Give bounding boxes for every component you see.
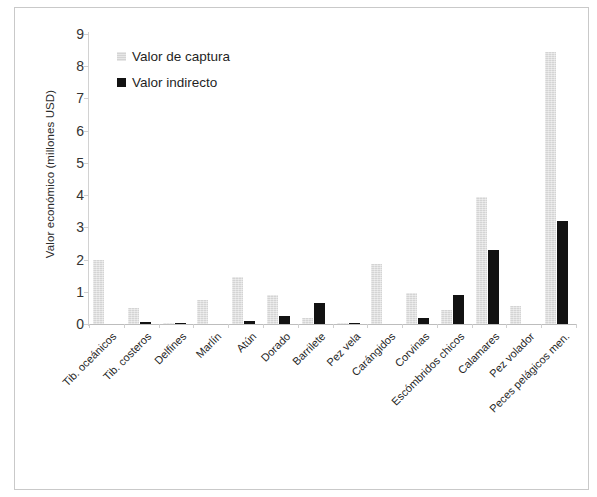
bar-valor-de-captura[interactable] bbox=[545, 52, 556, 324]
bar-valor-de-captura[interactable] bbox=[232, 277, 243, 324]
bar-group bbox=[333, 34, 368, 324]
legend-item-label: Valor de captura bbox=[132, 50, 230, 64]
bar-valor-de-captura[interactable] bbox=[476, 197, 487, 324]
bar-valor-indirecto[interactable] bbox=[453, 295, 464, 324]
y-axis-tick-mark bbox=[84, 131, 89, 132]
legend-swatch-indirect-icon bbox=[117, 78, 126, 87]
bar-group bbox=[437, 34, 472, 324]
bar-valor-indirecto[interactable] bbox=[314, 303, 325, 324]
x-axis-tick-label: Tib. oceánicos bbox=[110, 330, 111, 331]
x-axis-tick-label: Peces pelágicos men. bbox=[563, 330, 564, 331]
bar-chart: Valor económico (millones USD) 012345678… bbox=[0, 0, 597, 497]
bar-group bbox=[506, 34, 541, 324]
bar-valor-indirecto[interactable] bbox=[418, 318, 429, 324]
y-axis-tick-mark bbox=[84, 227, 89, 228]
y-axis-tick-mark bbox=[84, 34, 89, 35]
bar-valor-de-captura[interactable] bbox=[197, 300, 208, 324]
y-axis-tick-label: 8 bbox=[62, 58, 84, 74]
bar-valor-indirecto[interactable] bbox=[140, 322, 151, 324]
y-axis-tick-mark bbox=[84, 195, 89, 196]
x-axis-tick-label: Carángidos bbox=[389, 330, 390, 331]
x-axis-tick-label: Pez volador bbox=[528, 330, 529, 331]
y-axis-tick-label: 9 bbox=[62, 26, 84, 42]
y-axis-tick-label: 5 bbox=[62, 155, 84, 171]
bar-group bbox=[228, 34, 263, 324]
bar-valor-de-captura[interactable] bbox=[406, 293, 417, 324]
y-axis-tick-label: 6 bbox=[62, 123, 84, 139]
x-axis-tick-mark bbox=[263, 324, 264, 328]
y-axis-tick-mark bbox=[84, 66, 89, 67]
legend-item[interactable]: Valor indirecto bbox=[117, 74, 230, 91]
x-axis-tick-label-text: Delfines bbox=[152, 330, 189, 367]
x-axis-tick-label-text: Marlín bbox=[193, 330, 223, 360]
x-axis-tick-mark bbox=[298, 324, 299, 328]
x-axis-tick-label: Marlín bbox=[215, 330, 216, 331]
y-axis-tick-mark bbox=[84, 292, 89, 293]
x-axis-tick-label: Calamares bbox=[493, 330, 494, 331]
bar-valor-de-captura[interactable] bbox=[302, 318, 313, 324]
legend-swatch-capture-icon bbox=[117, 52, 126, 61]
y-axis-tick-mark bbox=[84, 260, 89, 261]
bar-valor-indirecto[interactable] bbox=[349, 323, 360, 324]
bar-valor-indirecto[interactable] bbox=[488, 250, 499, 324]
x-axis-tick-mark bbox=[472, 324, 473, 328]
bar-valor-de-captura[interactable] bbox=[441, 310, 452, 325]
bar-valor-de-captura[interactable] bbox=[163, 323, 174, 324]
x-axis-tick-mark bbox=[228, 324, 229, 328]
x-axis-tick-label: Atún bbox=[250, 330, 251, 331]
x-axis-tick-mark bbox=[576, 324, 577, 328]
legend-item-label: Valor indirecto bbox=[132, 76, 217, 90]
x-axis-tick-label: Dorado bbox=[284, 330, 285, 331]
x-axis-tick-mark bbox=[541, 324, 542, 328]
bar-valor-indirecto[interactable] bbox=[175, 323, 186, 324]
bar-valor-de-captura[interactable] bbox=[510, 306, 521, 324]
bar-valor-de-captura[interactable] bbox=[371, 264, 382, 324]
y-axis-tick-mark bbox=[84, 98, 89, 99]
x-axis-tick-mark bbox=[193, 324, 194, 328]
x-axis-tick-label: Pez vela bbox=[354, 330, 355, 331]
x-axis-tick-label: Delfines bbox=[180, 330, 181, 331]
y-axis-tick-label: 3 bbox=[62, 219, 84, 235]
x-axis-tick-mark bbox=[89, 324, 90, 328]
bar-valor-indirecto[interactable] bbox=[279, 316, 290, 324]
x-axis-tick-label: Escómbridos chicos bbox=[458, 330, 459, 331]
bar-valor-de-captura[interactable] bbox=[267, 295, 278, 324]
x-axis-tick-label-text: Barrilete bbox=[290, 330, 327, 367]
bar-group bbox=[541, 34, 576, 324]
y-axis-tick-label: 0 bbox=[62, 316, 84, 332]
x-axis-tick-mark bbox=[333, 324, 334, 328]
bar-group bbox=[298, 34, 333, 324]
y-axis-tick-label: 4 bbox=[62, 187, 84, 203]
bar-group bbox=[367, 34, 402, 324]
x-axis-tick-label: Barrilete bbox=[319, 330, 320, 331]
y-axis-ticks: 0123456789 bbox=[54, 34, 84, 324]
x-axis-tick-mark bbox=[367, 324, 368, 328]
x-axis-tick-mark bbox=[506, 324, 507, 328]
bar-group bbox=[472, 34, 507, 324]
bar-valor-indirecto[interactable] bbox=[244, 321, 255, 324]
bar-valor-de-captura[interactable] bbox=[128, 308, 139, 324]
y-axis-tick-label: 7 bbox=[62, 90, 84, 106]
x-axis-tick-mark bbox=[124, 324, 125, 328]
y-axis-tick-mark bbox=[84, 163, 89, 164]
x-axis-tick-label-text: Dorado bbox=[259, 330, 293, 364]
chart-legend: Valor de capturaValor indirecto bbox=[117, 48, 230, 100]
legend-item[interactable]: Valor de captura bbox=[117, 48, 230, 65]
bar-valor-de-captura[interactable] bbox=[337, 323, 348, 324]
x-axis-tick-mark bbox=[159, 324, 160, 328]
y-axis-tick-label: 2 bbox=[62, 252, 84, 268]
bar-valor-indirecto[interactable] bbox=[557, 221, 568, 324]
bar-valor-de-captura[interactable] bbox=[93, 260, 104, 324]
y-axis-tick-label: 1 bbox=[62, 284, 84, 300]
x-axis-tick-label: Tib. costeros bbox=[145, 330, 146, 331]
bar-group bbox=[263, 34, 298, 324]
x-axis-tick-mark bbox=[402, 324, 403, 328]
x-axis-tick-label: Corvinas bbox=[423, 330, 424, 331]
x-axis-tick-mark bbox=[437, 324, 438, 328]
bar-group bbox=[402, 34, 437, 324]
x-axis-tick-label-text: Atún bbox=[234, 330, 258, 354]
